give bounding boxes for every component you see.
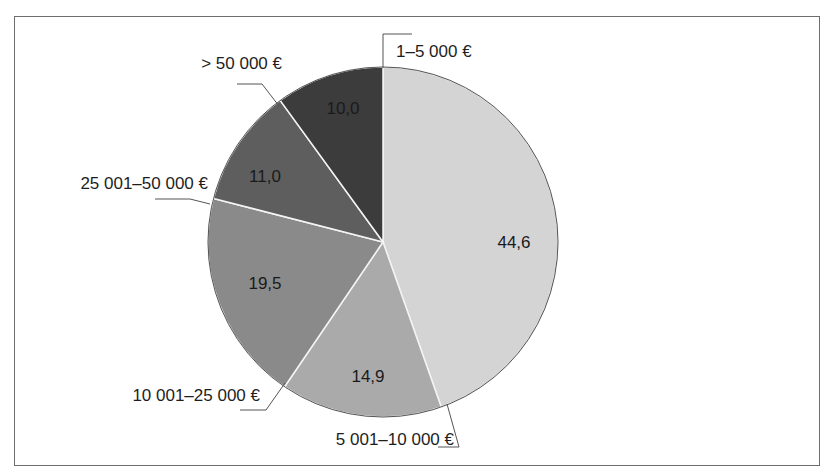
category-label-5001-10000: 5 001–10 000 € [336,430,455,449]
value-label-5001-10000: 14,9 [351,367,384,386]
category-label-10001-25000: 10 001–25 000 € [132,386,260,405]
value-label-25001-50000: 11,0 [249,167,281,186]
value-label-1-5000: 44,6 [497,233,530,252]
category-label-1-5000: 1–5 000 € [396,42,472,61]
leader-line-25001-50000 [155,199,210,204]
category-label-over-50000: > 50 000 € [201,54,282,73]
leader-line-over-50000 [237,84,279,106]
pie-chart: 44,6 14,9 19,5 11,0 10,0 1–5 000 € 5 001… [0,0,833,476]
value-label-10001-25000: 19,5 [248,274,281,293]
value-label-over-50000: 10,0 [326,99,359,118]
category-label-25001-50000: 25 001–50 000 € [80,174,208,193]
